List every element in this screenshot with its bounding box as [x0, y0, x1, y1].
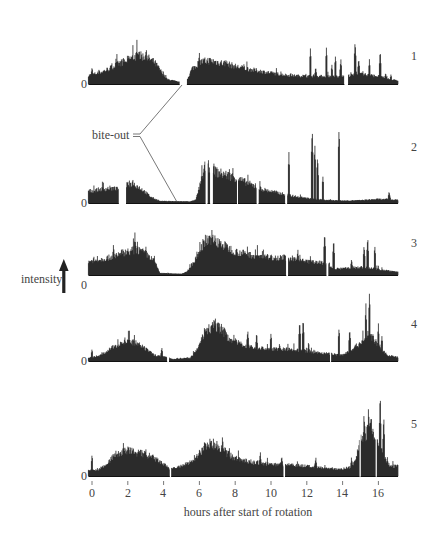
- x-tick-label-8: 8: [232, 487, 238, 499]
- zero-label-3: 0: [81, 279, 87, 291]
- x-axis-title: hours after start of rotation: [184, 506, 313, 518]
- panel-label-4: 4: [411, 318, 417, 330]
- bite-out-annotation: bite-out: [92, 129, 129, 141]
- panel-label-5: 5: [411, 418, 417, 430]
- x-tick-label-14: 14: [336, 487, 348, 499]
- zero-label-2: 0: [81, 197, 87, 209]
- zero-label-1: 0: [81, 78, 87, 90]
- histogram-panels: [88, 24, 398, 478]
- panel-2: [88, 132, 398, 205]
- x-tick-label-2: 2: [125, 487, 131, 499]
- x-tick-label-6: 6: [196, 487, 202, 499]
- zero-label-4: 0: [81, 355, 87, 367]
- y-axis-label: intensity: [21, 273, 62, 285]
- bite-out-pointer-lines: [133, 85, 182, 202]
- x-tick-label-10: 10: [265, 487, 277, 499]
- x-tick-label-12: 12: [301, 487, 313, 499]
- x-tick-label-0: 0: [89, 487, 95, 499]
- x-tick-label-4: 4: [160, 487, 166, 499]
- x-tick-label-16: 16: [372, 487, 384, 499]
- panel-5: [88, 401, 398, 478]
- zero-label-5: 0: [81, 470, 87, 482]
- panel-1: [88, 24, 398, 86]
- chart-canvas: [0, 0, 438, 536]
- panel-label-1: 1: [411, 50, 417, 62]
- panel-3: [88, 215, 398, 277]
- panel-label-3: 3: [411, 237, 417, 249]
- panel-label-2: 2: [411, 141, 417, 153]
- x-axis: [92, 481, 378, 485]
- panel-4: [88, 294, 398, 363]
